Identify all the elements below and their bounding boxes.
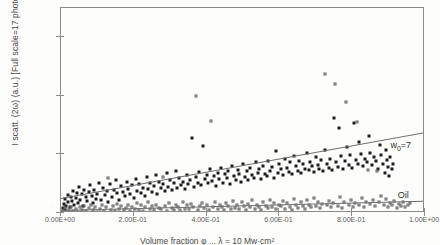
data-point	[345, 101, 348, 104]
data-point	[319, 207, 322, 210]
data-point	[163, 190, 166, 193]
data-point	[312, 196, 315, 199]
data-point	[294, 165, 297, 168]
data-point	[278, 163, 281, 166]
data-point	[266, 207, 269, 210]
data-point	[247, 179, 250, 182]
data-point	[363, 157, 366, 160]
data-point	[74, 197, 77, 200]
data-point	[218, 178, 221, 181]
data-point	[83, 204, 86, 207]
data-point	[378, 144, 381, 147]
data-point	[126, 203, 129, 206]
data-point	[336, 204, 339, 207]
data-point	[240, 180, 243, 183]
data-point	[189, 178, 192, 181]
data-point	[314, 156, 317, 159]
data-point	[136, 189, 139, 192]
data-point	[174, 170, 177, 173]
data-point	[109, 183, 112, 186]
data-point	[90, 194, 93, 197]
plot-annotation: Oil	[398, 190, 409, 200]
data-point	[103, 194, 106, 197]
data-point	[338, 126, 341, 129]
data-point	[367, 135, 370, 138]
data-point	[306, 199, 309, 202]
fit-line	[61, 132, 424, 199]
data-point	[404, 206, 407, 209]
data-point	[374, 160, 377, 163]
data-point	[127, 187, 130, 190]
data-point	[338, 195, 341, 198]
data-point	[351, 166, 354, 169]
data-point	[349, 198, 352, 201]
data-point	[129, 193, 132, 196]
data-point	[310, 206, 313, 209]
data-point	[225, 176, 228, 179]
data-point	[161, 175, 164, 178]
data-point	[94, 205, 97, 208]
data-point	[390, 168, 393, 171]
data-point	[171, 189, 174, 192]
data-point	[121, 190, 124, 193]
data-point	[334, 161, 337, 164]
data-point	[356, 120, 359, 123]
data-point	[70, 199, 73, 202]
data-point	[161, 183, 164, 186]
data-point	[200, 184, 203, 187]
data-point	[349, 153, 352, 156]
data-point	[389, 155, 392, 158]
data-point	[260, 208, 263, 211]
data-point	[297, 206, 300, 209]
data-point	[160, 187, 163, 190]
data-point	[391, 203, 394, 206]
data-point	[212, 175, 215, 178]
data-point	[201, 202, 204, 205]
data-point	[141, 186, 144, 189]
data-point	[89, 184, 92, 187]
data-point	[260, 178, 263, 181]
data-point	[309, 161, 312, 164]
data-point	[375, 170, 378, 173]
data-point	[262, 200, 265, 203]
data-point	[125, 180, 128, 183]
data-point	[253, 207, 256, 210]
data-point	[369, 151, 372, 154]
data-point	[265, 175, 268, 178]
data-point	[323, 73, 326, 76]
data-point	[205, 173, 208, 176]
data-point	[143, 195, 146, 198]
data-point	[207, 182, 210, 185]
data-point	[325, 162, 328, 165]
data-point	[238, 208, 241, 211]
data-point	[300, 172, 303, 175]
data-point	[327, 166, 330, 169]
data-point	[211, 180, 214, 183]
data-point	[83, 188, 86, 191]
data-point	[282, 199, 285, 202]
data-point	[386, 205, 389, 208]
data-point	[290, 208, 293, 211]
data-point	[192, 186, 195, 189]
data-point	[341, 206, 344, 209]
plot-area: w0=7Oil	[60, 7, 424, 212]
data-point	[94, 197, 97, 200]
data-point	[367, 168, 370, 171]
x-tick-mark	[133, 208, 134, 216]
data-point	[388, 174, 391, 177]
data-point	[70, 205, 73, 208]
data-point	[271, 166, 274, 169]
data-point	[249, 166, 252, 169]
data-point	[303, 207, 306, 210]
data-point	[123, 194, 126, 197]
data-point	[116, 192, 119, 195]
x-tick-mark	[278, 208, 279, 216]
data-point	[79, 198, 82, 201]
data-point	[385, 158, 388, 161]
data-point	[362, 206, 365, 209]
data-point	[100, 199, 103, 202]
data-point	[245, 170, 248, 173]
data-point	[386, 166, 389, 169]
data-point	[399, 204, 402, 207]
data-point	[152, 185, 155, 188]
